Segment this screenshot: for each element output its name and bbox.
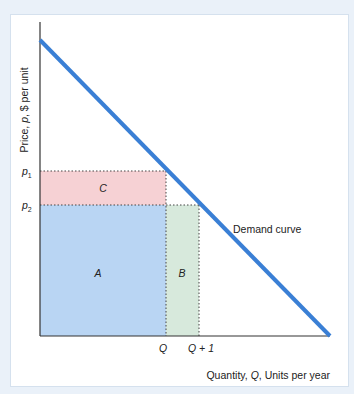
- y-axis-label: Price, p, $ per unit: [18, 67, 30, 152]
- area-a-label: A: [93, 267, 101, 279]
- x-axis-label: Quantity, Q, Units per year: [206, 369, 330, 381]
- demand-curve-label: Demand curve: [233, 223, 301, 235]
- demand-diagram: Price, p, $ per unit p1 p2 Q Q + 1 C A B…: [0, 0, 354, 394]
- price-tick-p2: p2: [21, 199, 32, 213]
- price-tick-p1: p1: [21, 165, 32, 179]
- area-c-label: C: [99, 182, 107, 194]
- quantity-tick-q-plus-1: Q + 1: [188, 342, 214, 354]
- area-b-label: B: [178, 267, 185, 279]
- area-a: [40, 205, 166, 336]
- quantity-tick-q: Q: [159, 342, 167, 354]
